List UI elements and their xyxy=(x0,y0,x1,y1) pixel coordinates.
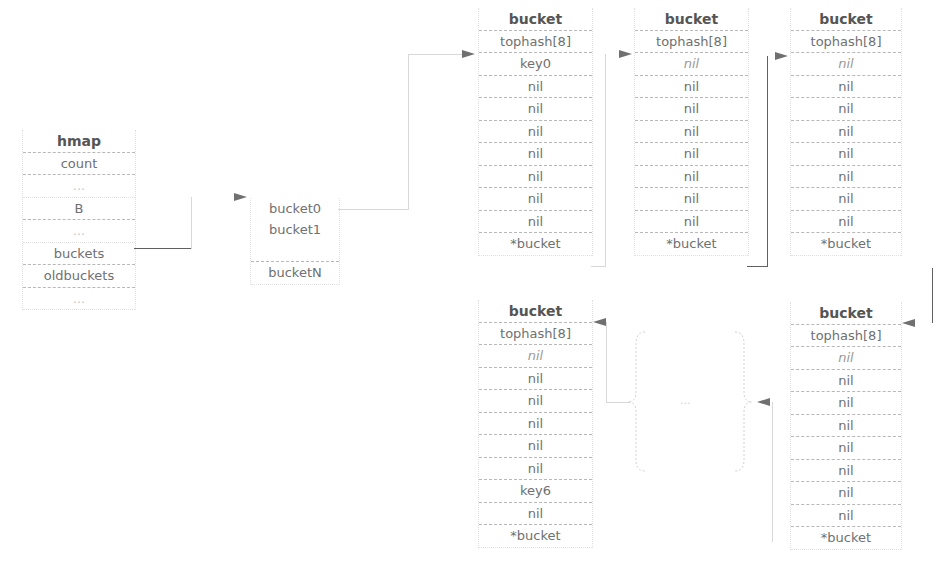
brace-shapes xyxy=(0,0,945,564)
ellipsis-label: ... xyxy=(680,394,691,407)
